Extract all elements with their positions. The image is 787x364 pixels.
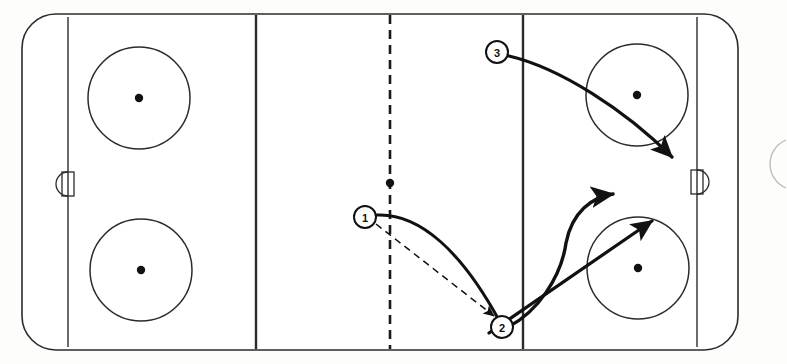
- player-marker-2[interactable]: 2: [491, 316, 513, 338]
- player-marker-1-label: 1: [362, 212, 368, 224]
- player-marker-3[interactable]: 3: [486, 41, 508, 63]
- page-margin-arc: [770, 140, 786, 188]
- faceoff-dot-top-left: [135, 94, 143, 102]
- rink-boards: [22, 14, 738, 350]
- player-marker-3-label: 3: [494, 47, 500, 59]
- hockey-rink-diagram: 1 2 3: [0, 0, 787, 364]
- player-marker-1[interactable]: 1: [354, 206, 376, 228]
- rink-canvas: 1 2 3: [0, 0, 787, 364]
- faceoff-dot-bottom-right: [634, 264, 642, 272]
- faceoff-dot-top-right: [633, 91, 641, 99]
- center-ice-dot: [386, 179, 394, 187]
- faceoff-dot-bottom-left: [137, 266, 145, 274]
- player-marker-2-label: 2: [499, 322, 505, 334]
